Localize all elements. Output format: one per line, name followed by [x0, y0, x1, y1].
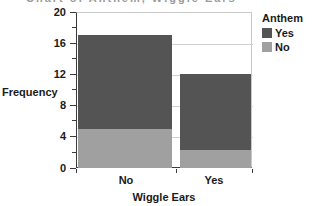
- x-tick-left: [76, 169, 77, 173]
- y-tick-minor-6: [72, 120, 76, 121]
- y-tick-label-0: 0: [60, 163, 66, 174]
- y-tick-12: [70, 74, 76, 75]
- y-tick-20: [70, 12, 76, 13]
- y-axis-title: Frequency: [2, 86, 58, 98]
- y-tick-minor-18: [72, 27, 76, 28]
- legend-title: Anthem: [262, 12, 317, 25]
- legend-swatch-no: [262, 42, 272, 52]
- y-tick-label-20: 20: [54, 7, 66, 18]
- x-tick-middle: [176, 169, 177, 173]
- y-tick-label-12: 12: [54, 69, 66, 80]
- x-tick-label-yes: Yes: [176, 174, 252, 186]
- x-tick-right: [252, 169, 253, 173]
- legend-label-no: No: [275, 42, 290, 53]
- legend: Anthem Yes No: [262, 12, 317, 53]
- y-tick-4: [70, 136, 76, 137]
- y-tick-label-16: 16: [54, 38, 66, 49]
- y-tick-16: [70, 43, 76, 44]
- x-tick-label-no: No: [76, 174, 176, 186]
- legend-label-yes: Yes: [275, 28, 294, 39]
- y-tick-8: [70, 105, 76, 106]
- y-tick-minor-2: [72, 152, 76, 153]
- legend-item-yes[interactable]: Yes: [262, 27, 317, 39]
- x-axis-title: Wiggle Ears: [76, 191, 252, 203]
- legend-swatch-yes: [262, 28, 272, 38]
- y-tick-label-8: 8: [60, 100, 66, 111]
- y-tick-label-4: 4: [60, 131, 66, 142]
- y-tick-minor-14: [72, 58, 76, 59]
- y-tick-minor-10: [72, 89, 76, 90]
- legend-item-no[interactable]: No: [262, 41, 317, 53]
